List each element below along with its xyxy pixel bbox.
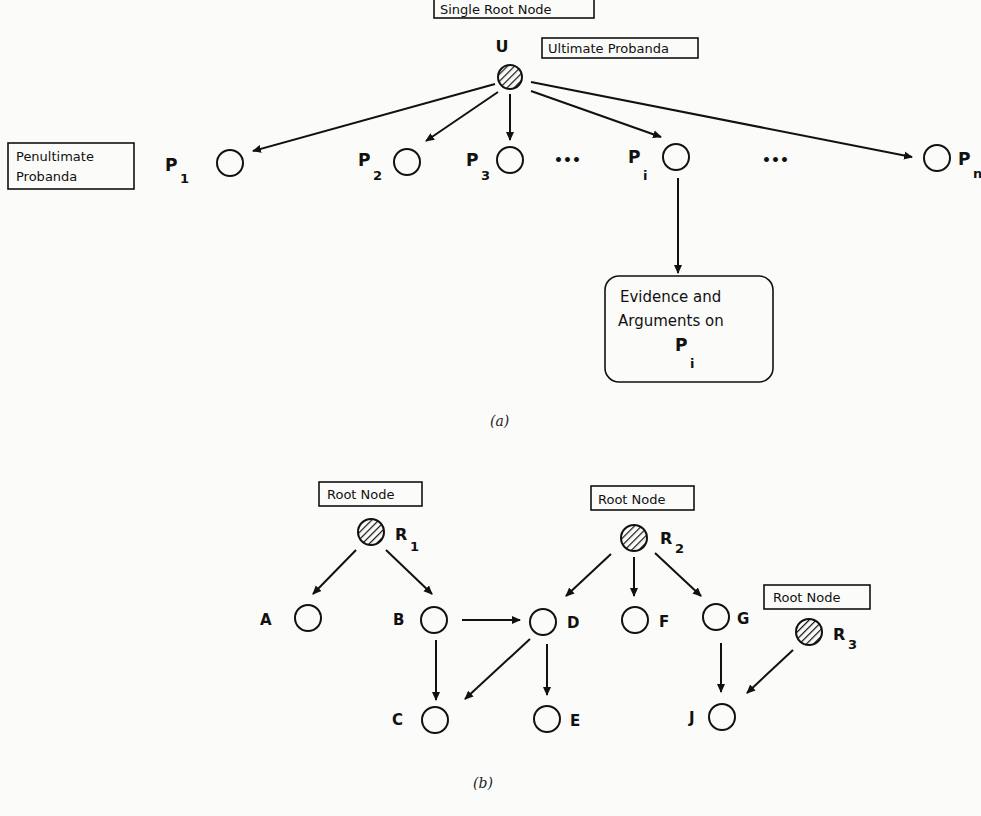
node-p3-label: P	[466, 150, 478, 170]
evidence-p: P	[675, 335, 687, 355]
edge-d-c	[465, 639, 530, 699]
node-r3-sub: 3	[848, 637, 857, 652]
node-p1-label: P	[165, 155, 177, 175]
node-a	[295, 605, 321, 631]
ellipsis-left: •••	[554, 152, 581, 168]
diagram-a: Single Root Node U Ultimate Probanda Pen…	[8, 0, 981, 429]
root-node-label-r2: Root Node	[598, 492, 666, 507]
node-c	[422, 707, 448, 733]
node-pn	[924, 145, 950, 171]
node-u	[498, 65, 522, 89]
edge-r1-a	[313, 550, 356, 594]
node-a-label: A	[260, 611, 272, 629]
node-e	[534, 706, 560, 732]
edge-r3-j	[747, 650, 793, 693]
node-r1	[358, 519, 384, 545]
node-j	[709, 704, 735, 730]
node-r3-label: R	[833, 625, 845, 644]
node-pi-label: P	[628, 147, 640, 167]
node-r2-sub: 2	[675, 541, 684, 556]
node-pi-sub: i	[643, 168, 647, 183]
ultimate-probanda-label: Ultimate Probanda	[548, 41, 669, 56]
edge-r2-g	[655, 553, 701, 596]
root-node-label-r1: Root Node	[327, 487, 395, 502]
node-d	[530, 609, 556, 635]
single-root-label: Single Root Node	[440, 2, 552, 17]
node-p2	[394, 149, 420, 175]
diagram-canvas: Single Root Node U Ultimate Probanda Pen…	[0, 0, 981, 816]
ellipsis-right: •••	[762, 152, 789, 168]
node-b-label: B	[393, 611, 404, 629]
caption-b: (b)	[473, 775, 493, 791]
node-f-label: F	[659, 613, 669, 631]
node-r2	[621, 525, 647, 551]
node-j-label: J	[688, 709, 695, 727]
node-r1-label: R	[395, 525, 407, 544]
node-p2-sub: 2	[373, 168, 382, 183]
node-e-label: E	[570, 712, 580, 730]
caption-a: (a)	[490, 413, 509, 429]
edge-u-pn	[531, 82, 912, 157]
edge-r2-d	[566, 554, 611, 596]
node-r1-sub: 1	[410, 539, 419, 554]
node-g-label: G	[737, 610, 749, 628]
node-f	[622, 607, 648, 633]
evidence-line-2: Arguments on	[618, 312, 724, 330]
node-d-label: D	[567, 614, 579, 632]
penultimate-label-1: Penultimate	[16, 149, 94, 164]
diagram-b: Root Node Root Node Root Node R 1 R 2 R …	[260, 482, 870, 791]
node-g	[703, 604, 729, 630]
edge-r1-b	[386, 550, 432, 594]
node-p1-sub: 1	[180, 171, 189, 186]
edge-u-p1	[253, 84, 495, 151]
node-pn-sub: n	[973, 166, 981, 181]
node-r3	[796, 619, 822, 645]
node-pi	[663, 144, 689, 170]
node-u-label: U	[496, 37, 509, 56]
node-c-label: C	[392, 711, 403, 729]
root-node-label-r3: Root Node	[773, 590, 841, 605]
penultimate-label-2: Probanda	[16, 169, 77, 184]
evidence-line-1: Evidence and	[620, 288, 721, 306]
node-p3-sub: 3	[481, 168, 490, 183]
node-p2-label: P	[358, 150, 370, 170]
node-b	[421, 607, 447, 633]
node-p1	[217, 150, 243, 176]
node-p3	[497, 147, 523, 173]
evidence-sub: i	[690, 356, 694, 371]
node-pn-label: P	[958, 149, 970, 169]
node-r2-label: R	[660, 529, 672, 548]
edge-u-pi	[531, 91, 661, 137]
